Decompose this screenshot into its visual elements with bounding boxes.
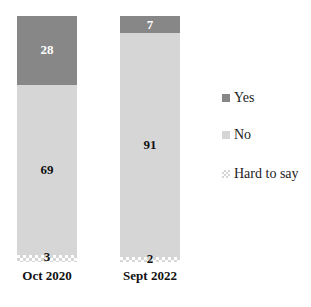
legend-item-yes: Yes bbox=[222, 90, 254, 106]
value-label: 28 bbox=[41, 42, 54, 58]
segment-no: 91 bbox=[120, 33, 180, 257]
legend-swatch-icon bbox=[222, 170, 230, 178]
segment-hard-to-say: 3 bbox=[17, 255, 77, 262]
legend-item-hard-to-say: Hard to say bbox=[222, 166, 299, 182]
value-label: 3 bbox=[17, 249, 77, 265]
value-label: 2 bbox=[120, 251, 180, 267]
legend-swatch-icon bbox=[222, 94, 230, 102]
bar-oct-2020: 28 69 3 bbox=[17, 16, 77, 262]
legend-label: No bbox=[234, 127, 251, 143]
legend-swatch-icon bbox=[222, 131, 230, 139]
segment-hard-to-say: 2 bbox=[120, 257, 180, 262]
x-label-oct-2020: Oct 2020 bbox=[7, 268, 87, 284]
segment-yes: 28 bbox=[17, 16, 77, 85]
legend-item-no: No bbox=[222, 127, 251, 143]
legend-label: Yes bbox=[234, 90, 254, 106]
value-label: 7 bbox=[147, 17, 154, 33]
value-label: 91 bbox=[144, 137, 157, 153]
segment-yes: 7 bbox=[120, 16, 180, 33]
legend-label: Hard to say bbox=[234, 166, 299, 182]
bar-sept-2022: 7 91 2 bbox=[120, 16, 180, 262]
value-label: 69 bbox=[41, 162, 54, 178]
segment-no: 69 bbox=[17, 85, 77, 255]
x-label-sept-2022: Sept 2022 bbox=[110, 268, 190, 284]
